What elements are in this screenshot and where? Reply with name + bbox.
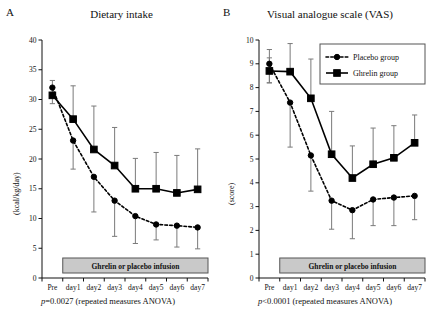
- data-point-circle: [133, 213, 138, 218]
- y-tick-label: 10: [29, 214, 37, 223]
- panel-a: A Dietary intake (kcal/kg/day) 051015202…: [0, 0, 216, 320]
- data-point-square: [194, 186, 201, 193]
- x-tick-label: day2: [304, 283, 319, 292]
- panel-b: B Visual analogue scale (VAS) (score) 01…: [217, 0, 433, 320]
- x-tick-label: day6: [170, 283, 185, 292]
- panel-a-stat: p=0.0027 (repeated measures ANOVA): [0, 296, 216, 306]
- y-tick-label: 25: [29, 125, 37, 134]
- y-tick-label: 6: [250, 131, 254, 140]
- series-line-ghrelin-group: [52, 95, 197, 193]
- x-tick-label: day2: [87, 283, 102, 292]
- data-point-circle: [195, 225, 200, 230]
- data-point-circle: [70, 138, 75, 143]
- x-tick-label: Pre: [264, 283, 275, 292]
- y-tick-label: 15: [29, 184, 37, 193]
- data-point-square: [132, 185, 139, 192]
- x-tick-label: Pre: [47, 283, 58, 292]
- data-point-square: [391, 155, 398, 162]
- infusion-span-label: Ghrelin or placebo infusion: [308, 262, 397, 271]
- data-point-square: [70, 116, 77, 123]
- data-point-square: [49, 92, 56, 99]
- legend-box: [320, 44, 425, 84]
- data-point-square: [308, 95, 315, 102]
- data-point-square: [153, 185, 160, 192]
- data-point-circle: [91, 174, 96, 179]
- x-tick-label: day1: [66, 283, 81, 292]
- data-point-circle: [329, 198, 334, 203]
- data-point-circle: [350, 207, 355, 212]
- x-tick-label: day3: [107, 283, 122, 292]
- x-tick-label: day4: [345, 283, 360, 292]
- x-tick-label: day6: [387, 283, 402, 292]
- series-line-ghrelin-group: [269, 71, 414, 178]
- data-point-circle: [370, 197, 375, 202]
- y-tick-label: 40: [29, 36, 37, 45]
- data-point-square: [370, 161, 377, 168]
- data-point-square: [287, 68, 294, 75]
- data-point-circle: [308, 153, 313, 158]
- x-tick-label: day7: [190, 283, 205, 292]
- panel-b-svg: 012345678910Preday1day2day3day4day5day6d…: [217, 0, 433, 290]
- data-point-circle: [287, 100, 292, 105]
- y-tick-label: 5: [33, 244, 37, 253]
- y-tick-label: 20: [29, 155, 37, 164]
- y-tick-label: 9: [250, 59, 254, 68]
- data-point-square: [266, 68, 273, 75]
- panel-b-stat: p<0.0001 (repeated measures ANOVA): [217, 296, 433, 306]
- y-tick-label: 7: [250, 107, 254, 116]
- y-tick-label: 35: [29, 65, 37, 74]
- figure-root: A Dietary intake (kcal/kg/day) 051015202…: [0, 0, 433, 320]
- y-tick-label: 8: [250, 83, 254, 92]
- series-line-placebo-group: [52, 88, 197, 228]
- data-point-square: [328, 151, 335, 158]
- data-point-circle: [391, 195, 396, 200]
- y-tick-label: 0: [33, 274, 37, 283]
- data-point-circle: [174, 223, 179, 228]
- y-tick-label: 1: [250, 250, 254, 259]
- panel-b-plot: 012345678910Preday1day2day3day4day5day6d…: [217, 0, 433, 290]
- data-point-square: [411, 140, 418, 147]
- x-tick-label: day5: [366, 283, 381, 292]
- y-tick-label: 4: [250, 178, 254, 187]
- legend-label: Ghrelin group: [353, 69, 398, 78]
- data-point-circle: [112, 198, 117, 203]
- x-tick-label: day3: [324, 283, 339, 292]
- data-point-circle: [50, 85, 55, 90]
- data-point-square: [111, 162, 118, 169]
- x-tick-label: day1: [283, 283, 298, 292]
- data-point-circle: [267, 61, 272, 66]
- x-tick-label: day5: [149, 283, 164, 292]
- y-tick-label: 2: [250, 226, 254, 235]
- panel-a-svg: 0510152025303540Preday1day2day3day4day5d…: [0, 0, 216, 290]
- legend-label: Placebo group: [353, 53, 399, 62]
- data-point-square: [91, 146, 98, 153]
- y-tick-label: 0: [250, 274, 254, 283]
- data-point-square: [349, 175, 356, 182]
- panel-b-stat-rest: <0.0001 (repeated measures ANOVA): [262, 296, 392, 306]
- y-tick-label: 3: [250, 202, 254, 211]
- infusion-span-label: Ghrelin or placebo infusion: [91, 262, 180, 271]
- data-point-square: [174, 190, 181, 197]
- y-tick-label: 30: [29, 95, 37, 104]
- panel-a-stat-rest: =0.0027 (repeated measures ANOVA): [45, 296, 175, 306]
- data-point-circle: [412, 193, 417, 198]
- legend-marker-square: [334, 70, 341, 77]
- y-tick-label: 5: [250, 155, 254, 164]
- data-point-circle: [153, 222, 158, 227]
- panel-a-plot: 0510152025303540Preday1day2day3day4day5d…: [0, 0, 216, 290]
- legend-marker-circle: [334, 54, 339, 59]
- x-tick-label: day4: [128, 283, 143, 292]
- y-tick-label: 10: [246, 36, 254, 45]
- x-tick-label: day7: [407, 283, 422, 292]
- series-line-placebo-group: [269, 64, 414, 210]
- axis-lines: [42, 40, 208, 278]
